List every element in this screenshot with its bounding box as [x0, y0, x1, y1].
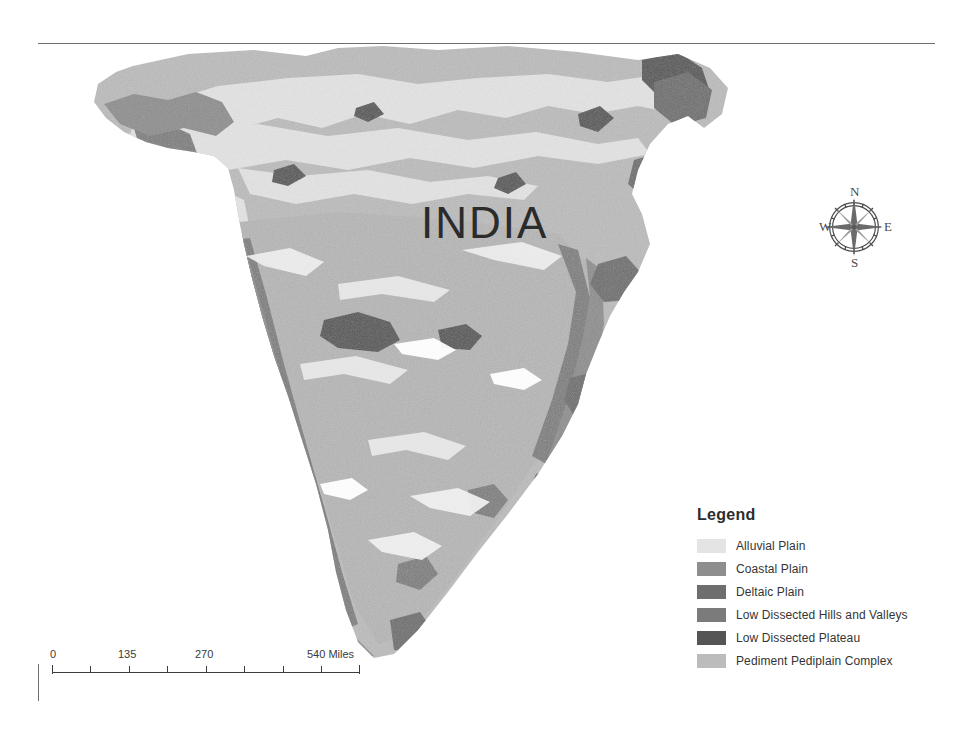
legend-item-alluvial-plain[interactable]: Alluvial Plain [697, 534, 947, 557]
legend-item-deltaic-plain[interactable]: Deltaic Plain [697, 580, 947, 603]
scale-tick-2 [129, 666, 130, 673]
scale-tick-5 [244, 666, 245, 673]
legend-label-low-dissected-plateau: Low Dissected Plateau [736, 631, 860, 645]
legend-swatch-pediment-pediplain-complex [697, 654, 726, 668]
scale-label-540-miles: 540 Miles [307, 648, 354, 660]
scale-tick-3 [167, 666, 168, 673]
legend-item-low-dissected-hills-and-valleys[interactable]: Low Dissected Hills and Valleys [697, 603, 947, 626]
legend-label-coastal-plain: Coastal Plain [736, 562, 808, 576]
india-geomorphology-map[interactable] [38, 44, 738, 664]
legend-item-coastal-plain[interactable]: Coastal Plain [697, 557, 947, 580]
scale-tick-7 [321, 666, 322, 673]
scale-label-0: 0 [50, 648, 56, 660]
legend-label-deltaic-plain: Deltaic Plain [736, 585, 804, 599]
scale-tick-4 [206, 666, 207, 673]
scale-tick-6 [283, 666, 284, 673]
scale-label-135: 135 [118, 648, 136, 660]
scale-tick-0 [52, 665, 53, 674]
legend-label-low-dissected-hills-and-valleys: Low Dissected Hills and Valleys [736, 608, 908, 622]
scale-bar: 0 135 270 540 Miles [52, 648, 360, 690]
map-figure: INDIA [0, 0, 958, 734]
compass-east-label: E [884, 219, 892, 235]
legend-title: Legend [697, 506, 947, 524]
legend-label-alluvial-plain: Alluvial Plain [736, 539, 805, 553]
legend-swatch-low-dissected-hills-and-valleys [697, 608, 726, 622]
legend-swatch-coastal-plain [697, 562, 726, 576]
scale-tick-8 [359, 665, 360, 674]
compass-west-label: W [819, 219, 831, 235]
scale-tick-1 [90, 666, 91, 673]
legend-swatch-deltaic-plain [697, 585, 726, 599]
legend-item-pediment-pediplain-complex[interactable]: Pediment Pediplain Complex [697, 649, 947, 672]
legend-swatch-low-dissected-plateau [697, 631, 726, 645]
compass-south-label: S [851, 255, 858, 271]
legend-swatch-alluvial-plain [697, 539, 726, 553]
legend-item-low-dissected-plateau[interactable]: Low Dissected Plateau [697, 626, 947, 649]
country-label-india: INDIA [421, 198, 548, 248]
legend: Legend Alluvial Plain Coastal Plain Delt… [697, 506, 947, 672]
scale-label-270: 270 [195, 648, 213, 660]
compass-north-label: N [850, 184, 859, 200]
legend-label-pediment-pediplain-complex: Pediment Pediplain Complex [736, 654, 893, 668]
